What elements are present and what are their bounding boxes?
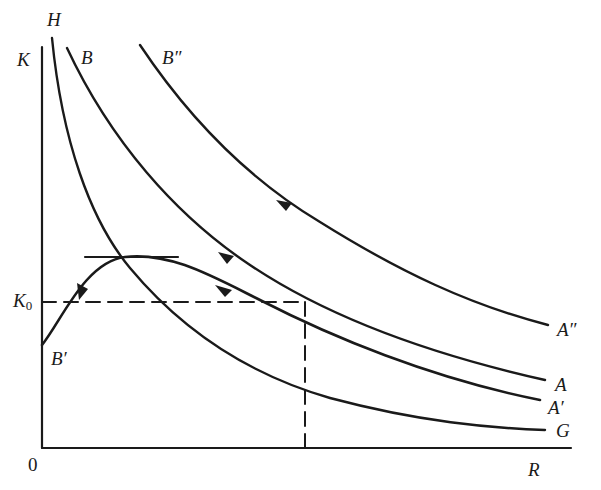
label-k0: K0	[13, 291, 32, 312]
label-b: B	[81, 48, 93, 67]
curve-b2-a2	[140, 45, 548, 325]
curve-b1-a1	[42, 256, 540, 400]
phase-diagram: H K B B″ K0 B′ A″ A A′ G 0 R	[0, 0, 601, 490]
label-b-prime: B′	[51, 349, 67, 368]
label-b-double-prime: B″	[162, 48, 182, 67]
label-k0-subscript: 0	[26, 298, 33, 313]
label-h: H	[47, 10, 61, 29]
label-k-axis: K	[17, 50, 30, 69]
label-a-prime: A′	[548, 398, 564, 417]
arrow-icon-a1	[215, 285, 232, 297]
diagram-canvas	[0, 0, 601, 490]
label-k0-main: K	[13, 290, 26, 311]
label-r-axis: R	[528, 460, 540, 479]
label-g: G	[556, 421, 570, 440]
label-origin: 0	[28, 455, 38, 474]
label-a-double-prime: A″	[557, 320, 577, 339]
label-a: A	[555, 375, 567, 394]
curve-h-g	[52, 38, 545, 430]
arrow-icon-b	[218, 252, 234, 264]
